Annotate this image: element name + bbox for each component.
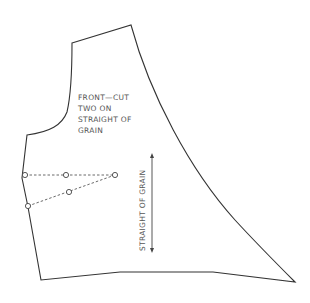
dart-point-icon — [63, 172, 68, 177]
piece-label-line-1: FRONT—CUT — [78, 93, 129, 102]
piece-label-line-3: STRAIGHT OF — [78, 115, 132, 124]
dart-point-icon — [25, 203, 30, 208]
pattern-outline — [22, 25, 295, 282]
piece-label-line-2: TWO ON — [77, 104, 112, 113]
dart-point-icon — [112, 172, 117, 177]
piece-label-line-4: GRAIN — [78, 126, 103, 135]
dart-point-icon — [22, 172, 27, 177]
piece-label: FRONT—CUT TWO ON STRAIGHT OF GRAIN — [77, 93, 134, 135]
grainline-label: STRAIGHT OF GRAIN — [138, 170, 147, 251]
pattern-diagram: FRONT—CUT TWO ON STRAIGHT OF GRAIN STRAI… — [0, 0, 310, 303]
dart — [22, 172, 117, 208]
grainline-arrow-icon — [150, 153, 154, 253]
dart-point-icon — [66, 189, 71, 194]
